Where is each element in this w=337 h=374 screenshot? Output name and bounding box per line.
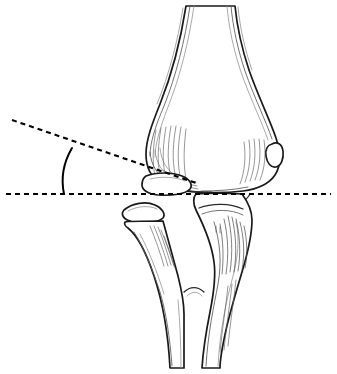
elbow-diagram-svg: Lateral elbow bone tracing with angle me… [0, 0, 337, 374]
bone-lower-fragment [122, 203, 164, 223]
figure-root: Lateral elbow bone tracing with angle me… [0, 0, 337, 374]
bone-lateral-ossicle [266, 143, 283, 167]
bone-upper-fragment [142, 173, 191, 195]
